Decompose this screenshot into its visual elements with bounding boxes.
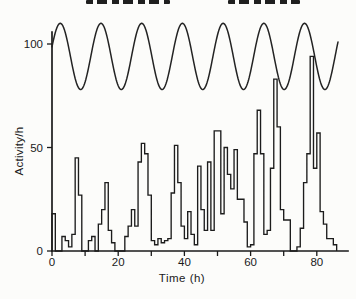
y-tick-label: 0 xyxy=(37,245,43,257)
entrainment-cycle-curve xyxy=(52,23,338,89)
activity-histogram-path xyxy=(52,56,337,251)
x-tick-label: 20 xyxy=(112,256,125,268)
y-tick-label: 100 xyxy=(24,38,43,50)
x-tick-label: 80 xyxy=(310,256,323,268)
x-tick-label: 0 xyxy=(49,256,55,268)
activity-chart: 050100 020406080 xyxy=(0,0,356,299)
y-axis-title: Activity/h xyxy=(13,126,25,175)
scanned-chart-figure: 050100 020406080 Activity/h Time (h) xyxy=(0,0,356,299)
x-tick-label: 40 xyxy=(178,256,191,268)
x-axis: 020406080 xyxy=(49,251,348,268)
y-axis: 050100 xyxy=(24,32,52,257)
x-axis-title: Time (h) xyxy=(159,272,205,284)
y-tick-label: 50 xyxy=(30,142,43,154)
x-tick-label: 60 xyxy=(244,256,257,268)
